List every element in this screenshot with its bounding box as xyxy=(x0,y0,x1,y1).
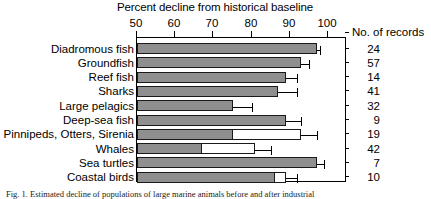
bar-segment-filled xyxy=(137,129,233,140)
bar-group xyxy=(137,43,339,54)
category-label: Large pelagics xyxy=(59,99,134,113)
bar-group xyxy=(137,172,339,183)
error-bar-cap xyxy=(309,60,310,69)
bar-segment-open xyxy=(274,172,286,183)
records-tick-mark xyxy=(345,105,349,106)
error-bar-line xyxy=(301,64,309,65)
x-tick-label-100: 100 xyxy=(312,17,342,29)
bar-row: Groundfish57 xyxy=(0,56,431,70)
error-bar-line xyxy=(278,92,297,93)
bar-group xyxy=(137,157,339,168)
error-bar-cap xyxy=(252,103,253,112)
records-tick-mark xyxy=(345,48,349,49)
bar-row: Deep-sea fish9 xyxy=(0,113,431,127)
error-bar-cap xyxy=(317,131,318,140)
records-tick-mark xyxy=(345,119,349,120)
records-value: 57 xyxy=(354,56,380,70)
bar-segment-filled xyxy=(137,72,286,83)
error-bar-cap xyxy=(324,160,325,169)
category-label: Whales xyxy=(96,142,134,156)
x-tick-label-50: 50 xyxy=(121,17,151,29)
records-tick-mark xyxy=(345,162,349,163)
bar-row: Sharks41 xyxy=(0,84,431,98)
records-column-header: No. of records xyxy=(352,26,424,38)
records-value: 9 xyxy=(354,113,380,127)
x-tick-label-70: 70 xyxy=(197,17,227,29)
records-value: 32 xyxy=(354,99,380,113)
bar-segment-filled xyxy=(137,143,202,154)
bar-row: Whales42 xyxy=(0,142,431,156)
records-tick-mark xyxy=(345,148,349,149)
bar-row: Coastal birds10 xyxy=(0,170,431,184)
error-bar-line xyxy=(286,78,297,79)
bar-segment-open xyxy=(232,129,302,140)
records-value: 42 xyxy=(354,142,380,156)
records-value: 24 xyxy=(354,42,380,56)
figure-caption: Fig. 1. Estimated decline of populations… xyxy=(6,189,431,199)
bar-segment-filled xyxy=(137,172,275,183)
error-bar-cap xyxy=(297,88,298,97)
records-value: 14 xyxy=(354,70,380,84)
category-label: Reef fish xyxy=(89,70,134,84)
figure-panel: Percent decline from historical baseline… xyxy=(0,0,431,199)
bar-segment-filled xyxy=(137,157,317,168)
category-label: Sea turtles xyxy=(79,156,134,170)
records-value: 19 xyxy=(354,127,380,141)
x-tick-label-90: 90 xyxy=(274,17,304,29)
bar-row: Reef fish14 xyxy=(0,70,431,84)
bar-group xyxy=(137,57,339,68)
category-label: Coastal birds xyxy=(67,170,134,184)
bar-segment-filled xyxy=(137,43,317,54)
records-value: 41 xyxy=(354,84,380,98)
error-bar-line xyxy=(317,164,325,165)
bar-group xyxy=(137,143,339,154)
error-bar-cap xyxy=(297,174,298,183)
records-tick-mark xyxy=(345,176,349,177)
bar-segment-filled xyxy=(137,115,286,126)
error-bar-cap xyxy=(301,117,302,126)
bar-row: Large pelagics32 xyxy=(0,99,431,113)
bar-group xyxy=(137,72,339,83)
records-tick-mark xyxy=(345,90,349,91)
records-value: 10 xyxy=(354,170,380,184)
error-bar-line xyxy=(233,107,252,108)
bar-row: Pinnipeds, Otters, Sirenia19 xyxy=(0,127,431,141)
error-bar-cap xyxy=(297,74,298,83)
records-header-tick xyxy=(345,32,349,33)
category-label: Groundfish xyxy=(78,56,134,70)
chart-title: Percent decline from historical baseline xyxy=(60,1,370,13)
records-tick-mark xyxy=(345,76,349,77)
bar-segment-filled xyxy=(137,100,233,111)
bar-segment-filled xyxy=(137,86,278,97)
error-bar-cap xyxy=(271,146,272,155)
x-axis-line xyxy=(136,37,346,38)
records-tick-mark xyxy=(345,133,349,134)
records-value: 7 xyxy=(354,156,380,170)
x-tick-label-80: 80 xyxy=(236,17,266,29)
x-tick-label-60: 60 xyxy=(159,17,189,29)
category-label: Pinnipeds, Otters, Sirenia xyxy=(4,127,134,141)
bar-group xyxy=(137,115,339,126)
error-bar-line xyxy=(301,135,316,136)
records-tick-mark xyxy=(345,62,349,63)
error-bar-cap xyxy=(320,46,321,55)
bar-segment-open xyxy=(201,143,255,154)
bar-segment-filled xyxy=(137,57,301,68)
category-label: Deep-sea fish xyxy=(63,113,134,127)
bar-row: Diadromous fish24 xyxy=(0,42,431,56)
category-label: Sharks xyxy=(98,84,134,98)
error-bar-line xyxy=(255,150,270,151)
bar-row: Sea turtles7 xyxy=(0,156,431,170)
bar-group xyxy=(137,86,339,97)
bar-group xyxy=(137,100,339,111)
bar-group xyxy=(137,129,339,140)
error-bar-line xyxy=(286,121,301,122)
category-label: Diadromous fish xyxy=(51,42,134,56)
error-bar-line xyxy=(286,178,297,179)
